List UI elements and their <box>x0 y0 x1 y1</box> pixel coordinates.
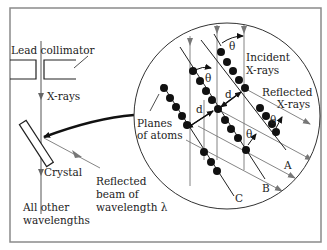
label-reflected-xrays-1: Reflected <box>262 86 313 98</box>
label-theta-top: θ <box>229 40 235 52</box>
label-reflected-beam-3: wavelength λ <box>96 201 168 213</box>
label-crystal: Crystal <box>44 166 83 178</box>
crystal <box>19 120 53 166</box>
magnify-pointer <box>44 115 134 137</box>
label-planes-2: of atoms <box>137 129 183 141</box>
label-incident-2: X-rays <box>246 64 279 76</box>
lead-collimator-right <box>44 60 76 79</box>
label-plane-a: A <box>283 159 292 171</box>
label-theta-lower: θ <box>246 128 252 140</box>
label-reflected-xrays-2: X-rays <box>277 98 310 110</box>
label-all-other-1: All other <box>22 201 70 213</box>
label-d-upper: d <box>225 88 232 100</box>
beam-arrow-icon <box>38 93 44 100</box>
label-plane-b: B <box>262 182 270 194</box>
label-x-rays: X-rays <box>47 90 80 102</box>
bragg-diffraction-diagram: Lead collimator X-rays Crystal Reflected… <box>0 0 327 250</box>
lead-collimator-left <box>10 60 36 79</box>
label-plane-c: C <box>235 192 243 204</box>
label-theta-mid: θ <box>205 72 211 84</box>
label-reflected-beam-1: Reflected <box>96 175 147 187</box>
label-planes-1: Planes <box>137 117 172 129</box>
label-d-lower: d <box>196 103 203 115</box>
label-incident-1: Incident <box>246 51 291 63</box>
label-lead-collimator: Lead collimator <box>11 44 96 56</box>
magnified-view-circle <box>134 23 320 209</box>
label-reflected-beam-2: beam of <box>96 188 140 200</box>
reflected-beam-arrow-icon <box>72 150 82 158</box>
label-all-other-2: wavelengths <box>23 214 90 226</box>
label-theta-right: θ <box>270 114 276 126</box>
collimator-pointer <box>74 56 88 68</box>
